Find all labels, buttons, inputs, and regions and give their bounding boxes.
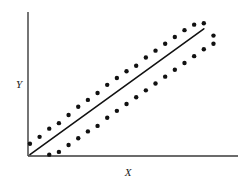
- data-point: [182, 61, 186, 65]
- data-point: [66, 113, 70, 117]
- data-point: [105, 116, 109, 120]
- data-point: [144, 55, 148, 59]
- data-point: [134, 95, 138, 99]
- figure-background: [0, 0, 249, 186]
- data-point: [76, 136, 80, 140]
- data-point: [95, 124, 99, 128]
- data-point: [57, 121, 61, 125]
- data-point: [211, 33, 215, 37]
- data-point: [211, 42, 215, 46]
- data-point: [66, 143, 70, 147]
- data-point: [57, 150, 61, 154]
- data-point: [105, 83, 109, 87]
- data-point: [144, 88, 148, 92]
- scatter-plot-figure: Y X: [0, 0, 249, 186]
- data-point: [47, 152, 51, 156]
- plot-canvas: Y X: [0, 0, 249, 186]
- data-point: [47, 126, 51, 130]
- data-point: [28, 141, 32, 145]
- data-point: [202, 47, 206, 51]
- data-point: [163, 74, 167, 78]
- data-point: [124, 69, 128, 73]
- data-point: [173, 68, 177, 72]
- data-point: [37, 135, 41, 139]
- x-axis-label: X: [124, 166, 133, 178]
- data-point: [76, 105, 80, 109]
- data-point: [124, 102, 128, 106]
- data-point: [153, 48, 157, 52]
- data-point: [192, 54, 196, 58]
- data-point: [182, 28, 186, 32]
- data-point: [173, 35, 177, 39]
- data-point: [134, 64, 138, 68]
- data-point: [86, 129, 90, 133]
- data-point: [115, 76, 119, 80]
- data-point: [202, 21, 206, 25]
- data-point: [86, 98, 90, 102]
- data-point: [153, 81, 157, 85]
- data-point: [192, 22, 196, 26]
- data-point: [115, 109, 119, 113]
- data-point: [95, 91, 99, 95]
- data-point: [163, 42, 167, 46]
